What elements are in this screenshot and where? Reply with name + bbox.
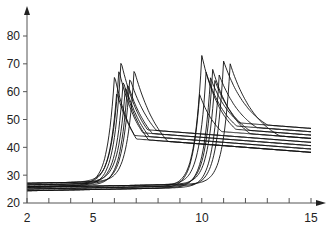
curve-group-1-5 bbox=[27, 88, 311, 183]
axes bbox=[23, 6, 326, 206]
x-label-2: 2 bbox=[24, 211, 31, 225]
y-label-70: 70 bbox=[7, 57, 21, 71]
x-label-5: 5 bbox=[90, 211, 97, 225]
curve-group-1-4 bbox=[27, 83, 311, 185]
x-tick-labels: 2 5 10 15 bbox=[24, 211, 318, 225]
x-label-10: 10 bbox=[195, 211, 209, 225]
curve-group-2-3 bbox=[27, 78, 311, 191]
curve-group-2-5 bbox=[27, 81, 311, 188]
curve-group-2-7 bbox=[27, 61, 311, 189]
x-ticks bbox=[27, 198, 311, 203]
curve-group-1-7 bbox=[27, 80, 311, 185]
curve-group-2-4 bbox=[27, 69, 311, 189]
curve-group-2-1 bbox=[27, 56, 311, 190]
curve-group-1-8 bbox=[27, 72, 311, 184]
curve-group-1-6 bbox=[27, 86, 311, 187]
curve-group-2-6 bbox=[27, 75, 311, 191]
y-label-80: 80 bbox=[7, 29, 21, 43]
y-label-40: 40 bbox=[7, 141, 21, 155]
curves bbox=[27, 56, 311, 191]
y-ticks bbox=[23, 36, 27, 203]
curve-group-1-2 bbox=[27, 72, 311, 183]
x-axis-arrow-icon bbox=[316, 200, 326, 206]
chart: 80 70 60 50 40 30 20 2 5 10 15 bbox=[0, 0, 328, 233]
curve-group-2-2 bbox=[27, 72, 311, 187]
y-tick-labels: 80 70 60 50 40 30 20 bbox=[7, 29, 21, 210]
y-axis-arrow-icon bbox=[24, 6, 30, 15]
y-label-30: 30 bbox=[7, 169, 21, 183]
y-label-20: 20 bbox=[7, 196, 21, 210]
y-label-50: 50 bbox=[7, 113, 21, 127]
x-label-15: 15 bbox=[304, 211, 318, 225]
y-label-60: 60 bbox=[7, 85, 21, 99]
